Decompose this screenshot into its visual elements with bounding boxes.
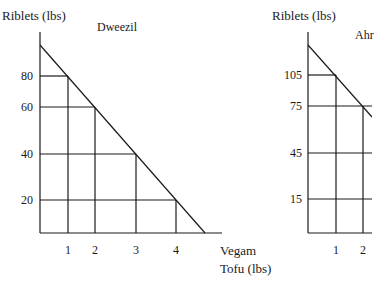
right-ytick-75: 75 (290, 100, 302, 112)
right-xtick-2: 2 (360, 244, 366, 256)
left-chart-title: Dweezil (97, 21, 137, 33)
left-xtick-2: 2 (92, 244, 98, 256)
left-ytick-40: 40 (21, 148, 33, 160)
right-ytick-45: 45 (290, 147, 302, 159)
left-ytick-80: 80 (21, 70, 33, 82)
left-xtick-1: 1 (65, 244, 71, 256)
right-ytick-15: 15 (290, 193, 302, 205)
right-xtick-1: 1 (333, 244, 339, 256)
left-x-axis-label-line2: Tofu (lbs) (220, 262, 271, 275)
left-y-axis-label: Riblets (lbs) (2, 9, 66, 22)
right-ytick-105: 105 (284, 69, 302, 81)
left-ytick-60: 60 (21, 101, 33, 113)
left-xtick-3: 3 (133, 244, 139, 256)
left-ytick-20: 20 (21, 194, 33, 206)
left-xtick-4: 4 (173, 244, 179, 256)
left-ppf-line (40, 45, 205, 233)
right-y-axis-label: Riblets (lbs) (272, 9, 336, 22)
right-chart-title: Ahr (355, 29, 374, 41)
left-x-axis-label-line1: Vegam (220, 244, 256, 257)
